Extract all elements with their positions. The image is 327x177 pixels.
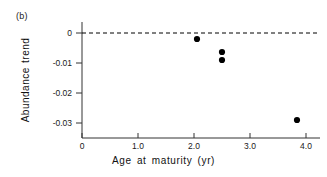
- y-axis-ticks: [76, 33, 82, 123]
- x-axis-ticks: [82, 133, 306, 138]
- x-tick-label-1: 1.0: [132, 141, 144, 151]
- y-tick-label-2: -0.02: [40, 88, 72, 98]
- data-point: [219, 49, 225, 55]
- x-tick-label-2: 2.0: [188, 141, 200, 151]
- data-point: [219, 57, 225, 63]
- y-tick-label-0: 0: [40, 28, 72, 38]
- x-tick-label-4: 4.0: [300, 141, 312, 151]
- y-axis-title-wrap: Abundance trend: [18, 20, 32, 140]
- x-axis-title: Age at maturity (yr): [0, 155, 327, 166]
- y-tick-label-1: -0.01: [40, 58, 72, 68]
- y-axis-title: Abundance trend: [20, 38, 31, 123]
- y-tick-label-3: -0.03: [40, 118, 72, 128]
- figure-panel-b: (b) 0 -0.01: [0, 0, 327, 177]
- data-point: [194, 36, 200, 42]
- x-tick-label-3: 3.0: [244, 141, 256, 151]
- data-point: [294, 117, 300, 123]
- x-tick-label-0: 0: [80, 141, 85, 151]
- data-points: [194, 36, 300, 123]
